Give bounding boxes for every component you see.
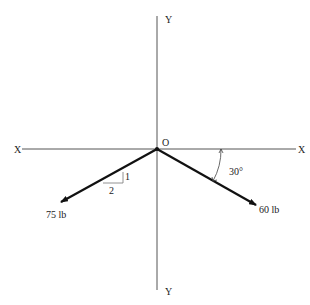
x-left-label: X (14, 144, 22, 155)
vector-60lb (157, 149, 256, 205)
force-75lb-label: 75 lb (46, 209, 66, 220)
y-bottom-label: Y (165, 286, 172, 297)
x-right-label: X (298, 144, 306, 155)
force-diagram: Y Y X X O 1 2 75 lb 30° 60 lb (0, 0, 310, 305)
y-top-label: Y (165, 14, 172, 25)
angle-label: 30° (229, 166, 243, 177)
origin-label: O (162, 137, 169, 148)
force-60lb-label: 60 lb (259, 204, 279, 215)
origin-point (155, 147, 159, 151)
slope-rise-label: 1 (125, 171, 130, 182)
slope-run-label: 2 (109, 185, 114, 196)
angle-arc (213, 149, 221, 181)
